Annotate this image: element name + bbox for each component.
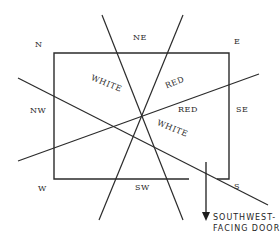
door-caption: SOUTHWEST- FACING DOOR [213, 212, 280, 234]
direction-e: E [234, 38, 240, 46]
direction-se: SE [236, 106, 248, 114]
direction-s: S [234, 183, 240, 191]
direction-n: N [35, 41, 43, 49]
door-arrow-icon [202, 162, 210, 221]
direction-nw: NW [30, 107, 46, 115]
door-caption-line2: FACING DOOR [213, 224, 280, 233]
bagua-diagram: N NE E NW SE W SW S WHITE RED RED WHITE … [0, 0, 280, 241]
direction-ne: NE [133, 34, 147, 42]
zone-label-red-right: RED [178, 106, 198, 114]
direction-sw: SW [135, 184, 150, 192]
direction-w: W [38, 185, 47, 193]
door-caption-line1: SOUTHWEST- [213, 213, 276, 222]
